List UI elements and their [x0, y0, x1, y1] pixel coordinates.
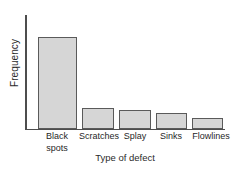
x-tick-label-flowlines: Flowlines — [182, 131, 240, 143]
bar-chart: Frequency Black spotsScratchesSplaySinks… — [0, 0, 251, 170]
bar-black-spots — [38, 37, 77, 129]
x-axis-label: Type of defect — [25, 152, 225, 164]
bar-splay — [119, 110, 151, 129]
bar-scratches — [82, 108, 114, 129]
bar-sinks — [156, 113, 187, 129]
bar-flowlines — [192, 118, 223, 129]
